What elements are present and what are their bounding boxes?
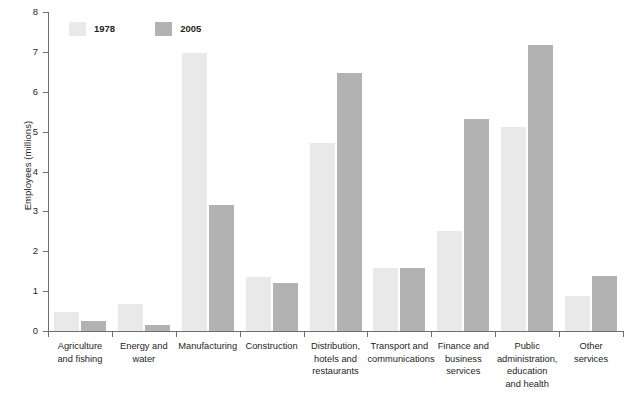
y-axis-tick-label: 0 xyxy=(20,324,38,337)
bar-chart: Employees (millions) 012345678 1978 2005… xyxy=(0,0,630,396)
x-axis-category-label: Transport andcommunications xyxy=(367,340,431,365)
y-axis-tick-label: 5 xyxy=(20,125,38,138)
bar-1978-7 xyxy=(501,127,526,331)
bar-1978-0 xyxy=(54,312,79,331)
x-axis-line xyxy=(48,331,623,332)
bar-2005-5 xyxy=(400,268,425,331)
y-axis-tick-label: 8 xyxy=(20,5,38,18)
bar-2005-2 xyxy=(209,205,234,331)
bar-1978-2 xyxy=(182,53,207,331)
x-axis-tick-mark xyxy=(367,331,368,337)
x-axis-category-label: Distribution,hotels andrestaurants xyxy=(304,340,368,378)
x-axis-category-label: Manufacturing xyxy=(176,340,240,353)
x-axis-category-label: Finance andbusinessservices xyxy=(431,340,495,378)
bar-1978-3 xyxy=(246,277,271,331)
x-axis-tick-mark xyxy=(176,331,177,337)
x-axis-category-labels: Agricultureand fishingEnergy andwaterMan… xyxy=(48,340,623,396)
x-axis-category-label: Construction xyxy=(240,340,304,353)
x-axis-category-label: Agricultureand fishing xyxy=(48,340,112,365)
bar-2005-1 xyxy=(145,325,170,331)
bar-1978-1 xyxy=(118,304,143,331)
bar-1978-6 xyxy=(437,231,462,331)
y-axis-tick-label: 3 xyxy=(20,204,38,217)
bar-1978-4 xyxy=(310,143,335,331)
bar-2005-4 xyxy=(337,73,362,331)
x-axis-tick-mark xyxy=(112,331,113,337)
bar-2005-3 xyxy=(273,283,298,331)
bar-1978-8 xyxy=(565,296,590,331)
x-axis-tick-mark xyxy=(431,331,432,337)
y-axis-tick-label: 4 xyxy=(20,165,38,178)
x-axis-tick-mark xyxy=(304,331,305,337)
bar-2005-8 xyxy=(592,276,617,331)
x-axis-tick-mark xyxy=(559,331,560,337)
bars-container xyxy=(48,12,623,331)
x-axis-tick-mark xyxy=(495,331,496,337)
x-axis-category-label: Otherservices xyxy=(559,340,623,365)
y-axis-tick-label: 1 xyxy=(20,284,38,297)
bar-2005-7 xyxy=(528,45,553,331)
y-axis-tick-label: 2 xyxy=(20,244,38,257)
bar-2005-6 xyxy=(464,119,489,331)
y-axis-tick-label: 6 xyxy=(20,85,38,98)
x-axis-tick-mark xyxy=(240,331,241,337)
y-axis-tick-label: 7 xyxy=(20,45,38,58)
x-axis-tick-mark xyxy=(623,331,624,337)
x-axis-category-label: Publicadministration,educationand health xyxy=(495,340,559,390)
x-axis-tick-mark xyxy=(48,331,49,337)
x-axis-category-label: Energy andwater xyxy=(112,340,176,365)
bar-2005-0 xyxy=(81,321,106,331)
bar-1978-5 xyxy=(373,268,398,331)
